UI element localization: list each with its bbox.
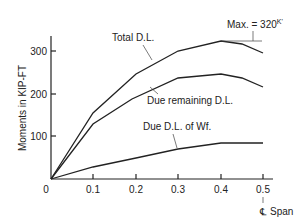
y-ticks: 100 200 300 — [30, 46, 56, 142]
x-tick-0.2: 0.2 — [129, 184, 143, 195]
max-label: Max. = 320K' — [227, 18, 283, 30]
moment-chart: 100 200 300 0 0.1 0.2 0.3 0.4 0.5 Moment… — [0, 0, 307, 223]
label-wf-dl: Due D.L. of Wf. — [143, 121, 211, 148]
x-tick-0.4: 0.4 — [214, 184, 228, 195]
x-tick-0: 0 — [43, 184, 49, 195]
x-ticks: 0 0.1 0.2 0.3 0.4 0.5 — [43, 174, 270, 203]
x-tick-0.3: 0.3 — [171, 184, 185, 195]
series-wf-dl — [51, 143, 263, 179]
x-tick-0.1: 0.1 — [86, 184, 100, 195]
series-total-dl — [51, 41, 263, 179]
svg-text:Total D.L.: Total D.L. — [112, 32, 154, 43]
x-axis-label: ℄ Span — [259, 206, 293, 217]
svg-text:Due D.L. of Wf.: Due D.L. of Wf. — [143, 121, 211, 132]
label-total-dl: Total D.L. — [112, 32, 154, 60]
centerline-icon: ℄ — [259, 206, 267, 217]
x-axis-label-text: Span — [270, 206, 293, 217]
y-axis-label: Moments in KIP-FT — [17, 65, 28, 151]
label-remaining-dl: Due remaining D.L. — [147, 87, 233, 106]
x-tick-0.5: 0.5 — [256, 184, 270, 195]
max-annotation: Max. = 320K' — [221, 18, 283, 41]
y-tick-200: 200 — [30, 89, 47, 100]
svg-text:Due remaining D.L.: Due remaining D.L. — [147, 95, 233, 106]
y-tick-300: 300 — [30, 46, 47, 57]
y-tick-100: 100 — [30, 131, 47, 142]
